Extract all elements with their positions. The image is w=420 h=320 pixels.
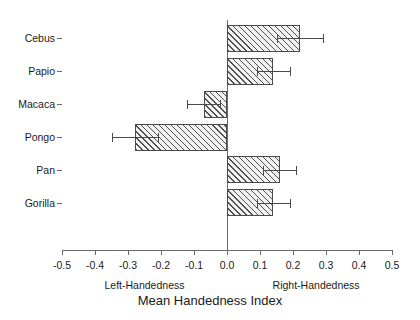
y-tick-papio [57,71,62,72]
y-tick-pan [57,170,62,171]
y-tick-macaca [57,104,62,105]
annotation-right-handedness: Right-Handedness [273,279,360,291]
y-axis-labels: CebusPapioMacacaPongoPanGorilla [0,20,55,250]
x-tick-0.5 [392,250,393,255]
x-tick-label--0.1: -0.1 [185,259,203,271]
error-bar-cap-low-papio [257,67,258,76]
x-tick-label-0.4: 0.4 [352,259,367,271]
x-tick--0.2 [161,250,162,255]
error-bar-cap-high-pongo [158,133,159,142]
x-tick-label--0.2: -0.2 [152,259,170,271]
error-bar-cap-low-gorilla [257,199,258,208]
error-bar-cap-high-pan [296,166,297,175]
error-bar-line-cebus [277,38,323,39]
y-tick-label-macaca: Macaca [18,98,55,110]
error-bar-cap-low-macaca [187,100,188,109]
x-tick--0.1 [194,250,195,255]
x-tick-0.2 [293,250,294,255]
handedness-bar-chart: CebusPapioMacacaPongoPanGorilla -0.5-0.4… [0,0,420,320]
error-bar-cap-high-macaca [220,100,221,109]
x-tick-label-0.0: 0.0 [220,259,235,271]
y-tick-label-papio: Papio [28,65,55,77]
error-bar-line-papio [257,71,290,72]
annotation-left-handedness: Left-Handedness [105,279,185,291]
y-tick-label-gorilla: Gorilla [25,197,55,209]
y-tick-label-cebus: Cebus [25,32,55,44]
error-bar-line-pongo [112,137,158,138]
error-bar-cap-high-cebus [323,34,324,43]
error-bar-line-pan [263,170,296,171]
x-axis-title: Mean Handedness Index [0,293,420,308]
y-tick-pongo [57,137,62,138]
x-tick--0.5 [62,250,63,255]
error-bar-cap-low-cebus [277,34,278,43]
plot-area: -0.5-0.4-0.3-0.2-0.10.00.10.20.30.40.5 L… [62,20,392,250]
x-tick-label-0.1: 0.1 [253,259,268,271]
error-bar-cap-high-gorilla [290,199,291,208]
x-tick-0.0 [227,250,228,255]
x-tick-0.3 [326,250,327,255]
y-tick-label-pan: Pan [36,164,55,176]
x-tick-label--0.3: -0.3 [119,259,137,271]
x-tick-label--0.4: -0.4 [86,259,104,271]
x-tick-label--0.5: -0.5 [53,259,71,271]
error-bar-cap-low-pongo [112,133,113,142]
y-tick-cebus [57,38,62,39]
x-tick-label-0.2: 0.2 [286,259,301,271]
y-tick-label-pongo: Pongo [25,131,55,143]
error-bar-cap-high-papio [290,67,291,76]
y-tick-gorilla [57,203,62,204]
x-tick--0.3 [128,250,129,255]
error-bar-line-macaca [187,104,220,105]
x-tick-label-0.5: 0.5 [385,259,400,271]
x-tick--0.4 [95,250,96,255]
error-bar-line-gorilla [257,203,290,204]
x-tick-label-0.3: 0.3 [319,259,334,271]
x-tick-0.4 [359,250,360,255]
x-tick-0.1 [260,250,261,255]
error-bar-cap-low-pan [263,166,264,175]
